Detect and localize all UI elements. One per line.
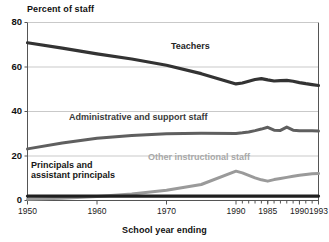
y-tick-label-40: 40 xyxy=(0,106,22,116)
x-tick-label-1970: 1970 xyxy=(147,206,187,216)
series-label-teachers: Teachers xyxy=(171,41,210,51)
x-tick-label-1960: 1960 xyxy=(77,206,117,216)
x-axis-ticks xyxy=(28,201,319,205)
x-tick-label-1993: 1993 xyxy=(299,206,329,216)
y-tick-label-60: 60 xyxy=(0,62,22,72)
principals-label-line-1: Principals and xyxy=(31,160,93,170)
series-label-administrative-and-support-staff: Administrative and support staff xyxy=(69,112,208,122)
x-tick-label-1950: 1950 xyxy=(8,206,48,216)
series-label-principals-and-assistant-principals: Principals andassistant principals xyxy=(31,160,115,180)
y-tick-label-0: 0 xyxy=(0,195,22,205)
y-tick-label-20: 20 xyxy=(0,151,22,161)
series-label-other-instructional-staff: Other instructional staff xyxy=(148,152,250,162)
principals-label-line-2: assistant principals xyxy=(31,170,115,180)
x-axis-title: School year ending xyxy=(0,225,329,235)
series-line-administrative-and-support-staff xyxy=(28,127,319,149)
y-tick-label-80: 80 xyxy=(0,17,22,27)
chart-figure: Percent of staff 80 60 40 20 0 1950 1960… xyxy=(0,0,329,242)
